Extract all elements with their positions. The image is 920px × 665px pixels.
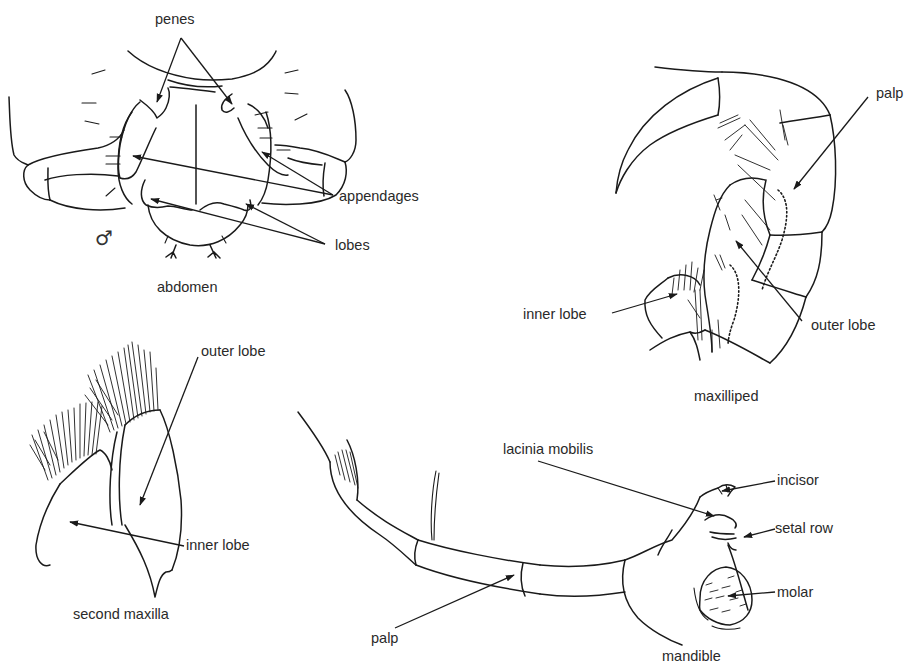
label-molar: molar bbox=[777, 585, 813, 600]
caption-maxilliped: maxilliped bbox=[694, 389, 758, 404]
label-maxilla-inner-lobe: inner lobe bbox=[186, 538, 250, 553]
maxilliped-leaders bbox=[612, 97, 868, 321]
label-lobes: lobes bbox=[335, 238, 370, 253]
label-maxilla-outer-lobe: outer lobe bbox=[201, 344, 266, 359]
caption-mandible: mandible bbox=[662, 649, 721, 664]
label-lacinia-mobilis: lacinia mobilis bbox=[503, 442, 593, 457]
label-maxilliped-palp: palp bbox=[876, 86, 903, 101]
label-incisor: incisor bbox=[777, 473, 819, 488]
caption-second-maxilla: second maxilla bbox=[73, 607, 169, 622]
mandible-leaders bbox=[395, 461, 775, 628]
label-penes: penes bbox=[155, 12, 195, 27]
maxilliped-drawing bbox=[616, 67, 836, 363]
label-setal-row: setal row bbox=[775, 521, 833, 536]
second-maxilla-drawing bbox=[30, 342, 181, 597]
label-mandible-palp: palp bbox=[371, 631, 398, 646]
label-appendages: appendages bbox=[339, 189, 419, 204]
second-maxilla-leaders bbox=[70, 357, 198, 546]
label-maxilliped-outer-lobe: outer lobe bbox=[811, 318, 876, 333]
label-maxilliped-inner-lobe: inner lobe bbox=[523, 307, 587, 322]
male-symbol: ♂ bbox=[95, 228, 113, 248]
caption-abdomen: abdomen bbox=[157, 280, 217, 295]
abdomen-leaders bbox=[133, 38, 333, 244]
anatomy-diagram: penes appendages lobes ♂ abdomen palp in… bbox=[0, 0, 920, 665]
diagram-canvas bbox=[0, 0, 920, 665]
abdomen-drawing bbox=[9, 51, 356, 258]
